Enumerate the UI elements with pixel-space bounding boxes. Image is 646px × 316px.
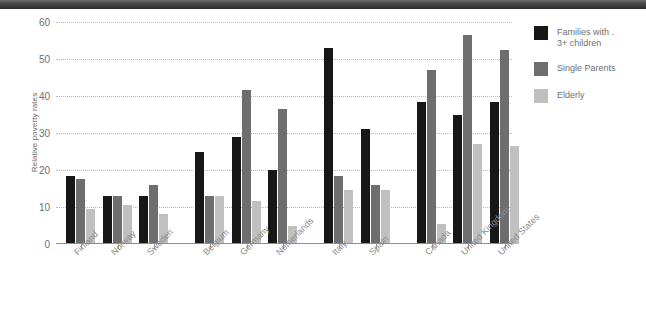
chart-page: Relative poverty rates 0102030405060 Fin… (0, 0, 646, 316)
bar-group (195, 22, 225, 244)
bar (149, 185, 158, 244)
bar (103, 196, 112, 244)
legend-label: Elderly (557, 89, 585, 101)
bar-group (139, 22, 169, 244)
bar (453, 115, 462, 245)
bar-group (453, 22, 483, 244)
bar (371, 185, 380, 244)
bar-group (66, 22, 96, 244)
bar (232, 137, 241, 244)
bars-layer (56, 22, 512, 244)
bar (344, 190, 353, 244)
bar (463, 35, 472, 244)
bar-group (103, 22, 133, 244)
legend-item: Families with . 3+ children (534, 26, 644, 49)
bar (361, 129, 370, 244)
legend-item: Single Parents (534, 62, 644, 76)
y-axis-title: Relative poverty rates (30, 53, 39, 213)
bar-group (324, 22, 354, 244)
bar-group (417, 22, 447, 244)
y-tick-label: 60 (39, 17, 50, 28)
x-axis-labels: FinlandNorwaySwedenBelgiumGermanyNetherl… (56, 250, 512, 316)
bar (417, 102, 426, 244)
bar (324, 48, 333, 244)
y-tick-label: 30 (39, 128, 50, 139)
y-tick-label: 0 (44, 239, 50, 250)
legend-label: Single Parents (557, 62, 616, 74)
bar (195, 152, 204, 245)
bar (334, 176, 343, 244)
bar (76, 179, 85, 244)
legend-label: Families with . 3+ children (557, 26, 614, 49)
legend-swatch-icon (534, 89, 548, 103)
bar-group (232, 22, 262, 244)
bar (242, 90, 251, 244)
bar (427, 70, 436, 244)
legend-item: Elderly (534, 89, 644, 103)
bar-group (361, 22, 391, 244)
bar (113, 196, 122, 244)
y-tick-label: 40 (39, 91, 50, 102)
window-header-band (0, 0, 646, 9)
y-tick-label: 50 (39, 54, 50, 65)
y-tick-label: 20 (39, 165, 50, 176)
bar-group (268, 22, 298, 244)
bar (278, 109, 287, 244)
bar (268, 170, 277, 244)
plot-area: 0102030405060 (56, 22, 512, 244)
chart-legend: Families with . 3+ childrenSingle Parent… (534, 26, 644, 116)
legend-swatch-icon (534, 26, 548, 40)
bar (66, 176, 75, 244)
y-tick-label: 10 (39, 202, 50, 213)
bar (139, 196, 148, 244)
legend-swatch-icon (534, 62, 548, 76)
